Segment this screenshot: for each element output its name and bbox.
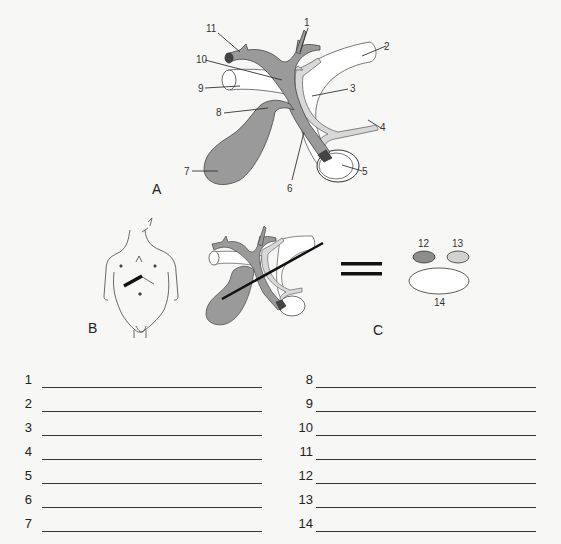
svg-text:3: 3 — [350, 83, 356, 94]
panel-label-c: C — [373, 322, 383, 338]
answer-number: 4 — [10, 444, 32, 459]
answer-number: 8 — [291, 372, 313, 387]
answer-line[interactable] — [316, 459, 536, 460]
section-diagram-small — [206, 226, 315, 325]
answer-number: 6 — [10, 492, 32, 507]
svg-text:13: 13 — [452, 238, 464, 249]
answer-line[interactable] — [316, 531, 536, 532]
svg-text:5: 5 — [362, 166, 368, 177]
cross-section-12-bile-duct — [413, 251, 435, 263]
svg-text:8: 8 — [216, 107, 222, 118]
svg-text:1: 1 — [304, 17, 310, 28]
answer-number: 7 — [10, 516, 32, 531]
svg-text:10: 10 — [196, 54, 208, 65]
answer-line[interactable] — [42, 435, 262, 436]
equals-sign — [341, 262, 382, 276]
answer-number: 10 — [291, 420, 313, 435]
answer-line[interactable] — [42, 411, 262, 412]
answer-number: 3 — [10, 420, 32, 435]
svg-text:4: 4 — [380, 122, 386, 133]
answer-line[interactable] — [42, 531, 262, 532]
answer-number: 1 — [10, 372, 32, 387]
answer-line[interactable] — [42, 483, 262, 484]
answer-number: 5 — [10, 468, 32, 483]
panel-label-a: A — [152, 181, 161, 197]
answer-line[interactable] — [316, 507, 536, 508]
svg-text:6: 6 — [287, 183, 293, 194]
biliary-anatomy-figure: 11 1 2 10 9 3 8 4 7 5 6 — [0, 0, 561, 370]
answer-number: 11 — [291, 444, 313, 459]
answer-number: 12 — [291, 468, 313, 483]
answer-line[interactable] — [316, 411, 536, 412]
answer-line[interactable] — [316, 435, 536, 436]
cross-section-14-portal-vein — [409, 268, 469, 294]
answer-line[interactable] — [42, 459, 262, 460]
panel-label-b: B — [88, 320, 97, 336]
answer-line[interactable] — [42, 387, 262, 388]
svg-text:12: 12 — [418, 238, 430, 249]
answer-line[interactable] — [316, 483, 536, 484]
svg-text:2: 2 — [384, 41, 390, 52]
cross-section-13-artery — [447, 251, 469, 263]
answer-number: 2 — [10, 396, 32, 411]
answer-number: 14 — [291, 516, 313, 531]
svg-text:14: 14 — [434, 297, 446, 308]
incision-line-b — [124, 276, 142, 286]
svg-text:7: 7 — [184, 166, 190, 177]
svg-text:11: 11 — [206, 23, 217, 34]
answer-number: 13 — [291, 492, 313, 507]
answer-number: 9 — [291, 396, 313, 411]
answer-line[interactable] — [42, 507, 262, 508]
svg-text:9: 9 — [198, 83, 204, 94]
answer-line[interactable] — [316, 387, 536, 388]
